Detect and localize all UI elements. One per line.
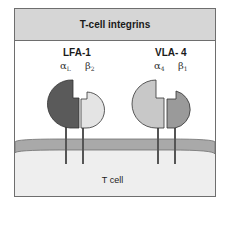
vla4-label: VLA- 4 xyxy=(155,47,187,58)
vla4-alpha-stalk xyxy=(157,127,159,164)
vla4-beta-stalk xyxy=(174,127,176,164)
vla4-beta-label: β1 xyxy=(178,60,188,72)
t-cell-label: T cell xyxy=(0,175,225,185)
vla4-alpha-label: α4 xyxy=(154,60,165,72)
vla4-alpha-subunit xyxy=(132,80,164,128)
lfa1-alpha-label: αL xyxy=(60,60,71,72)
lfa1-alpha-subunit xyxy=(47,80,79,128)
vla4-beta-subunit xyxy=(167,91,190,128)
lfa1-beta-label: β2 xyxy=(85,60,95,72)
lfa1-label: LFA-1 xyxy=(63,47,91,58)
t-cell-cytoplasm xyxy=(15,146,215,196)
lfa1-alpha-stalk xyxy=(65,127,67,164)
lfa1-beta-subunit xyxy=(81,92,105,128)
lfa1-beta-stalk xyxy=(82,127,84,164)
